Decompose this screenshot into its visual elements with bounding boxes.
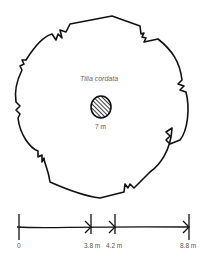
scale-label-1: 3.8 m [84,242,100,249]
trunk-icon [91,96,111,118]
scale-bar [17,214,189,240]
trunk-dimension-label: 7 m [95,123,106,130]
species-label: Tilia cordata [80,75,118,82]
scale-label-2: 4.2 m [106,242,122,249]
scale-label-0: 0 [17,242,21,249]
scale-label-3: 8.8 m [180,242,196,249]
tree-plan-drawing [0,0,209,268]
